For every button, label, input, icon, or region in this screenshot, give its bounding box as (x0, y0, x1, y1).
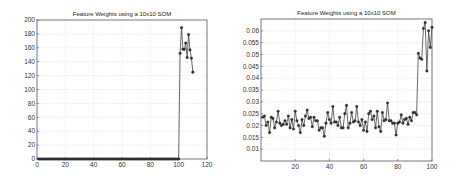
y-tick-label: 0.055 (243, 39, 260, 46)
x-tick-label: 60 (118, 161, 126, 168)
x-tick-label: 0 (35, 161, 39, 168)
data-markers (37, 26, 194, 160)
left-chart: 0204060801001200204060801001201401601802… (0, 0, 229, 178)
left-chart-svg: 0204060801001200204060801001201401601802… (0, 0, 229, 178)
x-tick-label: 120 (202, 161, 213, 168)
chart-title: Feature Weights using a 10x10 SOM (73, 11, 171, 17)
x-tick-label: 20 (292, 163, 300, 170)
x-tick-label: 80 (394, 163, 402, 170)
y-tick-label: 20 (28, 141, 36, 148)
y-tick-label: 0.06 (246, 27, 259, 34)
x-tick-label: 100 (427, 163, 438, 170)
y-tick-label: 80 (28, 100, 36, 107)
x-tick-label: 60 (360, 163, 368, 170)
x-tick-label: 40 (326, 163, 334, 170)
x-tick-label: 40 (90, 161, 98, 168)
grid (37, 20, 207, 159)
grid (261, 19, 432, 161)
y-tick-label: 40 (28, 127, 36, 134)
y-tick-label: 0 (31, 155, 35, 162)
y-tick-label: 0.035 (243, 86, 260, 93)
y-tick-label: 0.045 (243, 63, 260, 70)
y-tick-label: 0.03 (246, 98, 259, 105)
data-line (38, 28, 192, 159)
y-tick-label: 0.015 (243, 134, 260, 141)
x-tick-label: 100 (173, 161, 184, 168)
chart-title: Feature Weights using a 10x10 SOM (297, 10, 395, 16)
y-tick-label: 160 (24, 44, 35, 51)
y-tick-label: 120 (24, 72, 35, 79)
y-tick-label: 140 (24, 58, 35, 65)
y-tick-label: 60 (28, 114, 36, 121)
y-tick-label: 0.04 (246, 74, 259, 81)
x-tick-label: 20 (62, 161, 70, 168)
x-tick-label: 80 (147, 161, 155, 168)
right-chart-svg: 204060801000.010.0150.020.0250.030.0350.… (229, 0, 458, 178)
tick-labels: 204060801000.010.0150.020.0250.030.0350.… (243, 27, 438, 170)
y-tick-label: 180 (24, 30, 35, 37)
y-tick-label: 100 (24, 86, 35, 93)
y-tick-label: 0.01 (246, 145, 259, 152)
y-tick-label: 0.02 (246, 122, 259, 129)
y-tick-label: 200 (24, 16, 35, 23)
y-tick-label: 0.05 (246, 51, 259, 58)
right-chart: 204060801000.010.0150.020.0250.030.0350.… (229, 0, 458, 178)
y-tick-label: 0.025 (243, 110, 260, 117)
